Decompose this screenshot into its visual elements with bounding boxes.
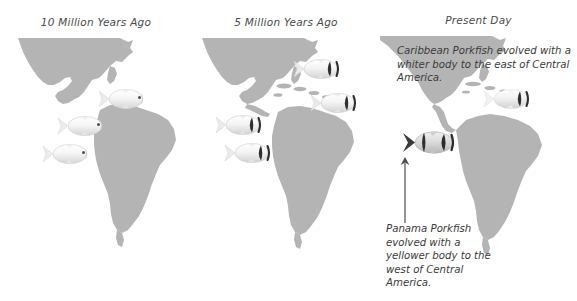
- island-2: [294, 87, 307, 91]
- panel-title-past: 10 Million Years Ago: [0, 16, 192, 28]
- island-5: [274, 93, 283, 97]
- ancestral-porkfish-3: [40, 141, 94, 167]
- caribbean-porkfish: [481, 86, 535, 112]
- patagonia-tip: [116, 230, 124, 247]
- ancestral-porkfish-1: [96, 86, 150, 112]
- island-hispaniola: [485, 86, 496, 90]
- island-3: [309, 91, 320, 95]
- south-america-landmass: [272, 106, 354, 235]
- panel-title-mid: 5 Million Years Ago: [192, 16, 380, 28]
- ancestral-porkfish-2: [55, 113, 109, 139]
- panel-present-day: Present Day: [380, 0, 577, 301]
- map-open-seaway: [0, 0, 192, 301]
- panama-porkfish: [400, 128, 460, 157]
- central-america-isthmus: [432, 104, 456, 133]
- patagonia-tip: [294, 232, 302, 249]
- caption-panama-porkfish: Panama Porkfish evolved with a yellower …: [386, 222, 506, 290]
- island-4: [322, 95, 330, 98]
- panel-10-million-years-ago: 10 Million Years Ago: [0, 0, 192, 301]
- striped-porkfish-2: [308, 90, 362, 116]
- evolution-figure: 10 Million Years Ago: [0, 0, 577, 301]
- island-1: [277, 83, 292, 88]
- florida-peninsula: [291, 66, 301, 84]
- south-america-landmass: [94, 104, 176, 233]
- pointer-arrow-icon: [398, 155, 412, 223]
- panel-5-million-years-ago: 5 Million Years Ago: [192, 0, 380, 301]
- map-partial-isthmus: [192, 0, 380, 301]
- island-lesser: [462, 90, 470, 93]
- north-america-landmass: [18, 38, 133, 104]
- striped-porkfish-1: [291, 56, 345, 82]
- striped-porkfish-3: [213, 112, 267, 138]
- panel-title-now: Present Day: [380, 14, 577, 26]
- island-puertorico: [500, 89, 507, 92]
- caption-caribbean-porkfish: Caribbean Porkfish evolved with a whiter…: [397, 44, 572, 85]
- central-america-partial: [245, 104, 270, 117]
- north-america-landmass: [202, 38, 318, 104]
- striped-porkfish-4: [222, 140, 276, 166]
- florida-peninsula: [107, 66, 117, 84]
